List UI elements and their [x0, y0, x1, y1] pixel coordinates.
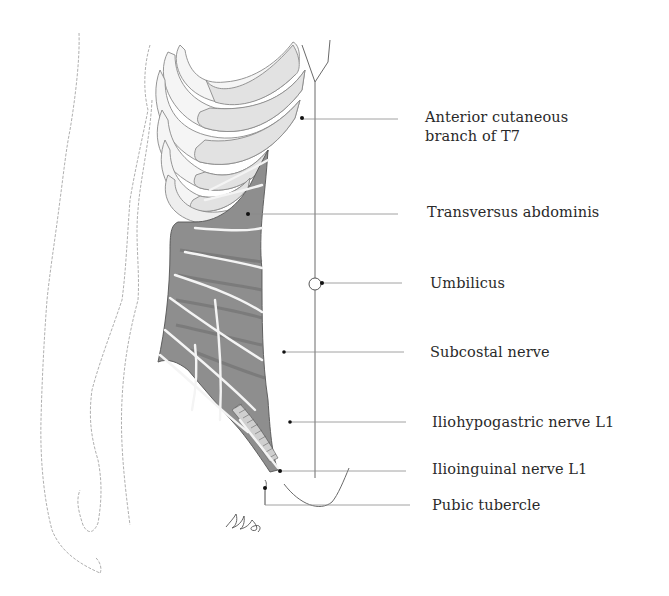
label-anterior-cutaneous-line-1: Anterior cutaneous	[425, 108, 568, 127]
arm-outline	[41, 33, 152, 573]
label-pubic-tubercle: Pubic tubercle	[432, 496, 540, 515]
label-transversus-abdominis: Transversus abdominis	[427, 203, 599, 222]
rib-cage	[156, 42, 305, 222]
label-anterior-cutaneous-line-2: branch of T7	[425, 127, 568, 146]
label-umbilicus: Umbilicus	[430, 274, 505, 293]
artist-signature	[226, 514, 260, 532]
label-iliohypogastric-nerve: Iliohypogastric nerve L1	[432, 413, 614, 432]
anatomy-illustration	[0, 0, 669, 596]
umbilicus-marker	[309, 278, 321, 290]
label-ilioinguinal-nerve: Ilioinguinal nerve L1	[432, 460, 587, 479]
label-subcostal-nerve: Subcostal nerve	[430, 343, 550, 362]
label-anterior-cutaneous-t7: Anterior cutaneous branch of T7	[425, 108, 568, 146]
